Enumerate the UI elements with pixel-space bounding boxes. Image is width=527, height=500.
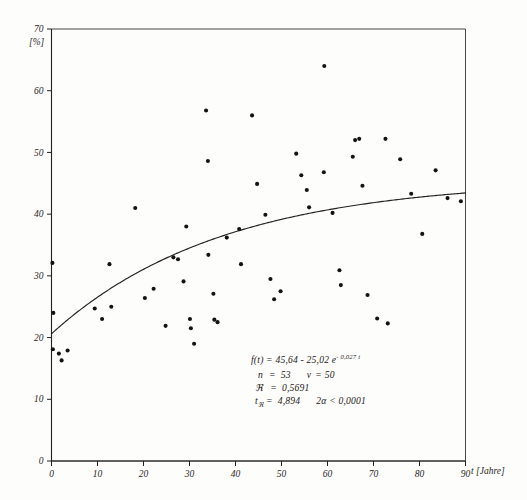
data-point [109, 305, 113, 309]
data-point [206, 253, 210, 257]
x-tick-label-90: 90 [461, 469, 471, 479]
y-tick-label-70: 70 [34, 24, 44, 34]
data-point [272, 297, 276, 301]
data-point [188, 317, 192, 321]
data-point [57, 352, 61, 356]
x-tick-label-80: 80 [415, 469, 425, 479]
data-point [351, 155, 355, 159]
data-point [176, 257, 180, 261]
data-point [237, 227, 241, 231]
data-point [216, 320, 220, 324]
data-point [339, 283, 343, 287]
data-point [386, 321, 390, 325]
data-point [239, 262, 243, 266]
data-point [100, 317, 104, 321]
data-point [307, 205, 311, 209]
plot-border [52, 29, 466, 461]
data-point [337, 268, 341, 272]
x-tick-label-40: 40 [231, 469, 241, 479]
y-tick-label-40: 40 [34, 209, 44, 219]
data-point [250, 113, 254, 117]
data-point [322, 170, 326, 174]
data-point [171, 255, 175, 259]
data-point [459, 199, 463, 203]
fit-curve-path [52, 193, 466, 334]
data-point [211, 292, 215, 296]
data-point [409, 192, 413, 196]
data-point [420, 232, 424, 236]
data-point [189, 326, 193, 330]
data-point [305, 188, 309, 192]
data-point [365, 293, 369, 297]
data-point [299, 173, 303, 177]
data-point [192, 342, 196, 346]
data-point [375, 316, 379, 320]
data-point [225, 236, 229, 240]
x-tick-label-50: 50 [277, 469, 287, 479]
data-point [50, 261, 54, 265]
data-point [66, 348, 70, 352]
data-point [268, 277, 272, 281]
data-point [93, 307, 97, 311]
data-point [398, 157, 402, 161]
data-point [434, 168, 438, 172]
axis-tick-labels: 0102030405060700102030405060708090 [33, 24, 471, 479]
data-point [51, 347, 55, 351]
x-tick-label-70: 70 [369, 469, 379, 479]
data-point [206, 159, 210, 163]
data-point [60, 358, 64, 362]
figure-scatter-regression: 0102030405060700102030405060708090 [%] t… [0, 0, 527, 500]
x-tick-label-0: 0 [49, 469, 54, 479]
x-tick-label-60: 60 [323, 469, 333, 479]
y-tick-label-0: 0 [39, 456, 44, 466]
data-point [212, 318, 216, 322]
data-point [353, 138, 357, 142]
y-tick-label-20: 20 [34, 333, 44, 343]
data-point [152, 287, 156, 291]
data-point [255, 182, 259, 186]
data-point [133, 206, 137, 210]
scatter-points [50, 64, 463, 362]
data-point [360, 184, 364, 188]
data-point [383, 137, 387, 141]
data-point [204, 108, 208, 112]
y-tick-label-50: 50 [34, 148, 44, 158]
data-point [143, 296, 147, 300]
regression-curve [52, 193, 466, 334]
data-point [184, 224, 188, 228]
plot-frame [52, 29, 466, 461]
y-tick-label-10: 10 [34, 394, 44, 404]
data-point [357, 137, 361, 141]
data-point [51, 311, 55, 315]
data-point [164, 324, 168, 328]
x-tick-label-20: 20 [139, 469, 149, 479]
x-tick-label-10: 10 [93, 469, 103, 479]
y-tick-label-60: 60 [34, 86, 44, 96]
plot-canvas: 0102030405060700102030405060708090 [0, 0, 527, 500]
data-point [263, 213, 267, 217]
data-point [279, 289, 283, 293]
data-point [446, 196, 450, 200]
data-point [331, 211, 335, 215]
data-point [181, 279, 185, 283]
data-point [322, 64, 326, 68]
data-point [107, 262, 111, 266]
axis-ticks [47, 29, 466, 466]
y-tick-label-30: 30 [33, 271, 44, 281]
data-point [294, 152, 298, 156]
x-tick-label-30: 30 [184, 469, 195, 479]
